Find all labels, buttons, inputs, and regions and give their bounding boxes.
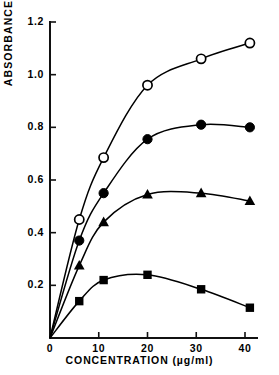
series-line [50,274,250,338]
data-point-circle-open [75,215,84,224]
data-point-circle-open [143,81,152,90]
data-point-circle-filled [143,135,152,144]
absorbance-concentration-chart: ABSORBANCE CONCENTRATION (µg/ml) 0.20.40… [0,0,279,375]
data-point-circle-filled [75,236,84,245]
series-line [50,124,250,338]
data-point-square-filled [75,297,83,305]
series-filled-square [50,271,254,338]
data-point-triangle-filled [74,260,85,270]
plot-area [0,0,279,375]
data-point-circle-open [99,153,108,162]
data-point-square-filled [246,304,254,312]
series-filled-triangle [50,188,255,338]
data-point-square-filled [143,271,151,279]
data-point-circle-open [197,54,206,63]
series-open-circle [50,38,254,338]
data-point-circle-filled [197,120,206,129]
data-point-circle-open [245,38,254,47]
data-point-square-filled [99,276,107,284]
data-point-circle-filled [99,189,108,198]
data-point-circle-filled [245,123,254,132]
data-point-square-filled [197,285,205,293]
